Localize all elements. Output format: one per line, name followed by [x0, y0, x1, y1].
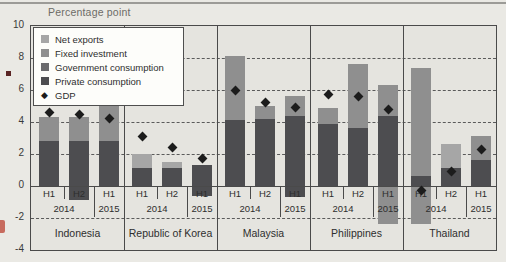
y-tick-label: -2 — [0, 211, 24, 222]
country-label: Thailand — [403, 227, 496, 239]
page-top-rule — [0, 2, 506, 4]
gdp-diamond-icon: ◆ — [41, 91, 49, 99]
bar-segment — [69, 117, 89, 141]
axis-unit-label: Percentage point — [48, 6, 131, 18]
period-label: H1 — [97, 188, 121, 199]
period-label: H1 — [283, 188, 307, 199]
bar-segment — [285, 116, 305, 186]
bar-segment — [348, 128, 368, 186]
year-label: 2015 — [462, 203, 500, 214]
y-tick-label: 0 — [0, 179, 24, 190]
y-tick-label: 4 — [0, 115, 24, 126]
period-label: H2 — [346, 188, 370, 199]
legend-label: Net exports — [55, 34, 104, 45]
bar-segment — [132, 168, 152, 186]
figure: Percentage point 1086420-2-4 H1H2H120142… — [0, 0, 506, 262]
period-label: H1 — [223, 188, 247, 199]
period-label: H1 — [130, 188, 154, 199]
year-label: 2014 — [408, 203, 464, 214]
bar-segment — [378, 116, 398, 186]
country-label: Indonesia — [31, 227, 124, 239]
legend-item: ◆GDP — [41, 88, 177, 102]
year-label: 2015 — [183, 203, 221, 214]
legend-label: Government consumption — [55, 62, 164, 73]
bar-segment — [39, 117, 59, 141]
y-tick-label: 6 — [0, 83, 24, 94]
bar-segment — [255, 119, 275, 186]
gdp-marker-icon — [44, 107, 54, 117]
panel-separator — [310, 26, 311, 250]
year-label: 2014 — [36, 203, 92, 214]
zero-baseline — [31, 186, 496, 187]
bar-segment — [411, 68, 431, 177]
gdp-marker-icon — [197, 154, 207, 164]
year-label: 2015 — [90, 203, 128, 214]
bar-segment — [441, 144, 461, 168]
year-label: 2015 — [369, 203, 407, 214]
period-label: H1 — [376, 188, 400, 199]
period-label: H1 — [469, 188, 493, 199]
period-label: H2 — [67, 188, 91, 199]
period-label: H2 — [253, 188, 277, 199]
bar-segment — [69, 141, 89, 186]
bar-segment — [162, 162, 182, 168]
bar-segment — [99, 141, 119, 186]
bar-segment — [192, 165, 212, 186]
period-label: H1 — [190, 188, 214, 199]
country-label: Malaysia — [217, 227, 310, 239]
period-tick — [64, 187, 65, 199]
year-label: 2014 — [315, 203, 371, 214]
private-consumption-swatch-icon — [41, 77, 49, 85]
fixed-investment-swatch-icon — [41, 49, 49, 57]
bar-segment — [162, 168, 182, 186]
legend-label: Private consumption — [55, 76, 141, 87]
legend-item: Government consumption — [41, 60, 177, 74]
year-label: 2015 — [276, 203, 314, 214]
period-label: H2 — [160, 188, 184, 199]
legend-item: Fixed investment — [41, 46, 177, 60]
period-tick — [157, 187, 158, 199]
y-tick-label: 2 — [0, 147, 24, 158]
bar-segment — [132, 154, 152, 168]
legend-item: Net exports — [41, 32, 177, 46]
period-label: H1 — [316, 188, 340, 199]
period-tick — [343, 187, 344, 199]
period-tick — [436, 187, 437, 199]
y-tick-label: 10 — [0, 19, 24, 30]
legend-label: GDP — [55, 90, 76, 101]
bar-segment — [318, 108, 338, 124]
y-tick-label: 8 — [0, 51, 24, 62]
bar-segment — [225, 120, 245, 186]
period-label: H1 — [37, 188, 61, 199]
margin-bullet-icon — [6, 71, 11, 76]
bar-segment — [39, 141, 59, 186]
country-label: Republic of Korea — [124, 227, 217, 239]
panel-separator — [217, 26, 218, 250]
period-label: H2 — [439, 188, 463, 199]
legend: Net exportsFixed investmentGovernment co… — [33, 27, 184, 106]
net-exports-swatch-icon — [41, 35, 49, 43]
country-label: Philippines — [310, 227, 403, 239]
year-label: 2014 — [222, 203, 278, 214]
bar-segment — [471, 160, 491, 186]
legend-label: Fixed investment — [55, 48, 127, 59]
gdp-marker-icon — [323, 90, 333, 100]
year-label: 2014 — [129, 203, 185, 214]
panel-separator — [403, 26, 404, 250]
legend-item: Private consumption — [41, 74, 177, 88]
gdp-marker-icon — [137, 131, 147, 141]
government-consumption-swatch-icon — [41, 63, 49, 71]
bar-segment — [318, 124, 338, 186]
y-tick-label: -4 — [0, 243, 24, 254]
period-tick — [250, 187, 251, 199]
gdp-marker-icon — [167, 143, 177, 153]
